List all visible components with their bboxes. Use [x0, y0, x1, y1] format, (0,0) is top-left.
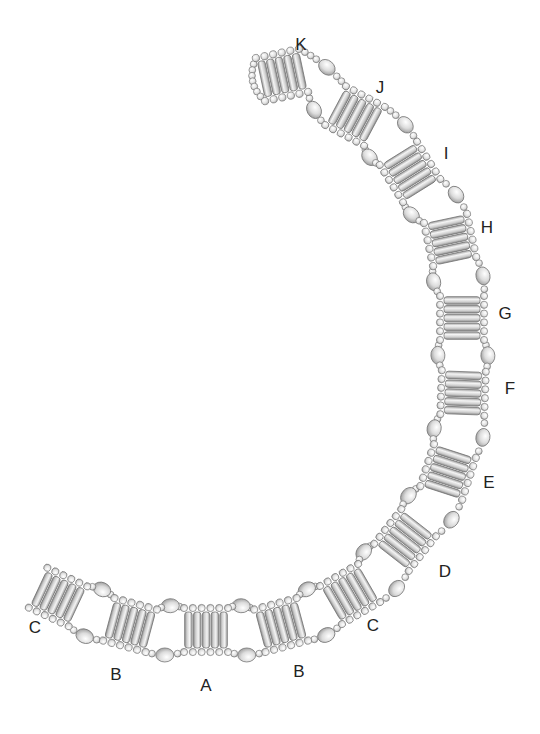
- bugle-segment-h: [420, 210, 481, 271]
- seed-bead: [481, 286, 488, 293]
- bugle-bead: [193, 612, 201, 648]
- bugle-bead: [445, 380, 481, 389]
- seed-bead: [267, 600, 276, 609]
- seed-bead: [270, 645, 279, 654]
- seed-bead: [436, 328, 443, 335]
- seed-bead: [224, 648, 231, 655]
- bugle-bead: [211, 612, 219, 648]
- seed-bead: [311, 636, 318, 643]
- seed-bead: [436, 301, 443, 308]
- oval-bead: [441, 508, 463, 531]
- bugle-bead: [444, 297, 480, 305]
- seed-bead: [465, 218, 474, 227]
- seed-bead: [460, 204, 467, 211]
- seed-bead: [443, 180, 450, 187]
- seed-bead: [198, 604, 205, 611]
- seed-bead: [481, 386, 488, 393]
- seed-bead: [425, 245, 434, 254]
- seed-bead: [456, 503, 463, 510]
- bugle-bead: [444, 406, 480, 415]
- bugle-bead: [445, 389, 481, 398]
- seed-bead: [277, 48, 286, 57]
- seed-bead: [421, 227, 430, 236]
- seed-bead: [278, 93, 287, 102]
- segment-label-i: I: [444, 144, 449, 164]
- seed-bead: [480, 292, 487, 299]
- seed-bead: [436, 336, 443, 343]
- seed-bead: [436, 292, 443, 299]
- seed-bead: [482, 368, 489, 375]
- seed-bead: [438, 528, 445, 535]
- seed-bead: [295, 90, 304, 99]
- seed-bead: [216, 648, 223, 655]
- seed-bead: [287, 641, 296, 650]
- seed-bead: [436, 310, 443, 317]
- seed-bead: [43, 563, 53, 573]
- seed-bead: [99, 636, 108, 645]
- oval-bead: [238, 648, 256, 662]
- seed-bead: [313, 56, 320, 63]
- bead-strands: [70, 49, 495, 662]
- segment-label-b-right: B: [293, 662, 304, 682]
- seed-bead: [180, 604, 187, 611]
- seed-bead: [436, 319, 443, 326]
- seed-bead: [119, 596, 128, 605]
- seed-bead: [149, 650, 156, 657]
- bugle-segment-b-right: [250, 594, 313, 657]
- seed-bead: [475, 448, 482, 455]
- seed-bead: [463, 210, 472, 219]
- seed-bead: [427, 253, 436, 262]
- seed-bead: [144, 603, 153, 612]
- seed-bead: [437, 393, 444, 400]
- bugle-segment-i: [375, 137, 446, 208]
- seed-bead: [480, 310, 487, 317]
- seed-bead: [174, 650, 181, 657]
- oval-bead: [430, 346, 445, 365]
- seed-bead: [127, 598, 136, 607]
- oval-bead: [156, 648, 174, 662]
- necklace-diagram: [0, 0, 540, 734]
- seed-bead: [480, 319, 487, 326]
- oval-bead: [474, 266, 491, 286]
- segment-label-b-left: B: [110, 665, 121, 685]
- bugle-bead: [444, 332, 480, 340]
- bugle-bead: [220, 612, 228, 648]
- bugle-bead: [445, 397, 481, 406]
- segment-label-d: D: [439, 562, 451, 582]
- seed-bead: [306, 95, 313, 102]
- seed-bead: [278, 643, 287, 652]
- seed-bead: [437, 402, 444, 409]
- seed-bead: [481, 394, 488, 401]
- bugle-bead: [444, 323, 480, 331]
- segment-label-h: H: [481, 218, 493, 238]
- seed-bead: [269, 50, 278, 59]
- segment-label-e: E: [483, 473, 494, 493]
- segment-label-c-left: C: [29, 618, 41, 638]
- seed-bead: [392, 112, 399, 119]
- seed-bead: [269, 95, 278, 104]
- seed-bead: [180, 648, 187, 655]
- segment-label-a: A: [200, 676, 211, 696]
- seed-bead: [258, 603, 267, 612]
- bugle-segment-d: [369, 504, 441, 576]
- segment-label-j: J: [376, 78, 385, 98]
- bugle-segment-f: [437, 367, 490, 420]
- seed-bead: [480, 412, 487, 419]
- bugle-bead: [444, 314, 480, 322]
- bugle-segment-b-left: [99, 594, 162, 657]
- seed-bead: [275, 598, 284, 607]
- seed-bead: [470, 244, 479, 253]
- seed-bead: [438, 375, 445, 382]
- seed-bead: [93, 636, 100, 643]
- bugle-bead: [185, 612, 193, 648]
- seed-bead: [216, 604, 223, 611]
- oval-bead: [480, 346, 495, 365]
- seed-bead: [438, 367, 445, 374]
- seed-bead: [383, 595, 390, 602]
- seed-bead: [136, 600, 145, 609]
- oval-bead: [474, 427, 491, 447]
- segment-label-k: K: [295, 35, 306, 55]
- seed-bead: [466, 227, 475, 236]
- seed-bead: [286, 46, 295, 55]
- seed-bead: [207, 604, 214, 611]
